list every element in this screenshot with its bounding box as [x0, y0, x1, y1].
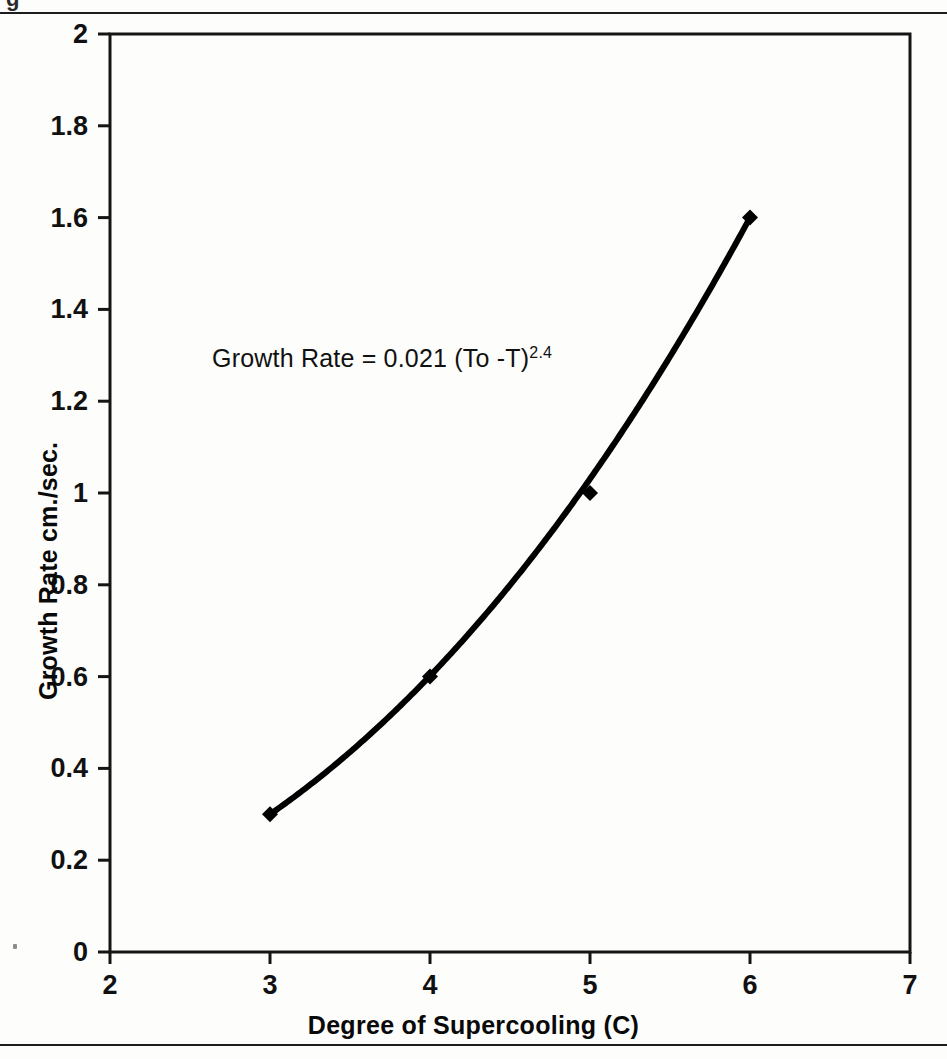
y-axis-title: Growth Rate cm./sec. — [34, 442, 63, 700]
scan-artifact-speck — [13, 944, 17, 949]
y-tick-label: 1.4 — [0, 294, 88, 325]
equation-base: Growth Rate = 0.021 (To -T) — [212, 344, 529, 372]
y-tick-label: 2 — [0, 19, 88, 50]
equation-annotation: Growth Rate = 0.021 (To -T)2.4 — [212, 344, 552, 373]
x-tick-label: 7 — [902, 970, 917, 1001]
plot-frame — [110, 34, 910, 952]
x-tick-label: 5 — [582, 970, 597, 1001]
y-axis-ticks — [98, 34, 110, 952]
growth-rate-chart: 21.81.61.41.210.80.60.40.20 234567 Growt… — [0, 0, 947, 1044]
y-tick-label: 0 — [0, 937, 88, 968]
y-tick-label: 0.4 — [0, 753, 88, 784]
y-tick-label: 1.8 — [0, 110, 88, 141]
y-tick-label: 1.2 — [0, 386, 88, 417]
equation-exponent: 2.4 — [529, 344, 552, 361]
x-tick-label: 3 — [262, 970, 277, 1001]
x-axis-title: Degree of Supercooling (C) — [0, 1011, 947, 1040]
y-tick-label: 0.2 — [0, 845, 88, 876]
y-tick-label: 1.6 — [0, 202, 88, 233]
x-tick-label: 6 — [742, 970, 757, 1001]
x-tick-label: 4 — [422, 970, 437, 1001]
x-axis-ticks — [110, 952, 910, 964]
growth-rate-curve — [270, 218, 750, 815]
plot-border — [110, 34, 910, 952]
page-rule-bottom — [0, 1044, 947, 1046]
plot-canvas — [0, 0, 947, 1044]
chart-page: g 21.81.61.41.210.80.60.40.20 234567 Gro… — [0, 0, 947, 1059]
data-point-markers — [262, 210, 758, 823]
x-tick-label: 2 — [102, 970, 117, 1001]
